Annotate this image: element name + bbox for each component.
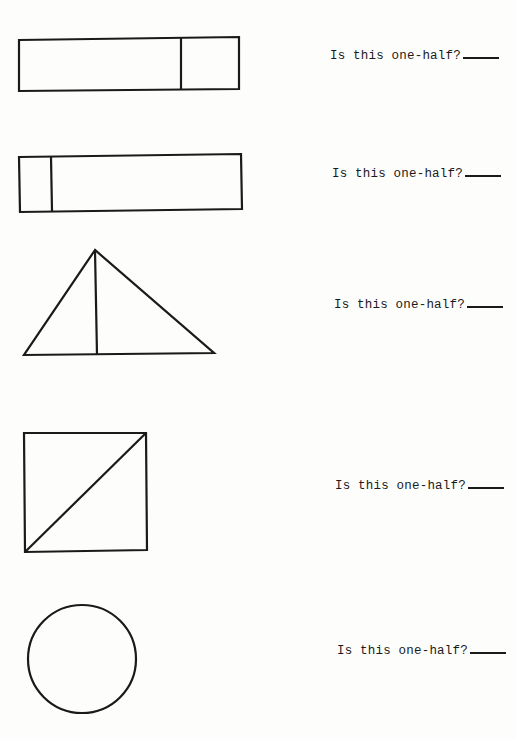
worksheet-page: Is this one-half? Is this one-half? Is t… <box>0 0 517 739</box>
question-4: Is this one-half? <box>335 479 504 493</box>
answer-blank-5[interactable] <box>470 651 506 654</box>
question-1-text: Is this one-half? <box>330 49 461 63</box>
answer-blank-2[interactable] <box>465 174 501 177</box>
figure-1-rectangle <box>19 37 239 91</box>
question-2: Is this one-half? <box>332 167 501 181</box>
figures-canvas <box>0 0 517 739</box>
answer-blank-3[interactable] <box>467 305 503 308</box>
question-3-text: Is this one-half? <box>334 298 465 312</box>
question-5: Is this one-half? <box>337 644 506 658</box>
question-2-text: Is this one-half? <box>332 167 463 181</box>
question-5-text: Is this one-half? <box>337 644 468 658</box>
answer-blank-4[interactable] <box>468 486 504 489</box>
figure-3-triangle <box>24 250 214 355</box>
question-3: Is this one-half? <box>334 298 503 312</box>
question-4-text: Is this one-half? <box>335 479 466 493</box>
figure-2-rectangle <box>19 154 242 212</box>
question-1: Is this one-half? <box>330 49 499 63</box>
figure-4-square <box>24 433 147 552</box>
figure-5-circle <box>28 605 136 713</box>
answer-blank-1[interactable] <box>463 56 499 59</box>
